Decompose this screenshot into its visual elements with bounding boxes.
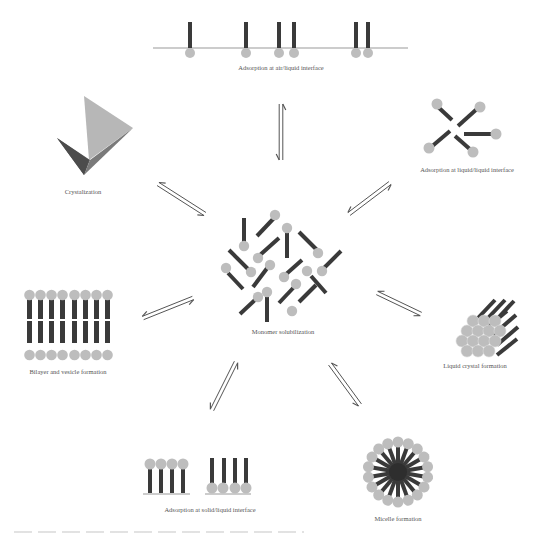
label-air-liquid: Adsorption at air/liquid interface	[238, 64, 323, 71]
equilibrium-arrow-solid-liquid	[210, 361, 237, 411]
equilibrium-arrow-crystal	[157, 182, 206, 215]
equilibrium-arrows	[142, 104, 421, 411]
label-bilayer: Bilayer and vesicle formation	[29, 368, 106, 375]
label-solid-liquid: Adsorption at solid/liquid interface	[164, 506, 255, 513]
monomer-cluster-figure	[221, 210, 341, 322]
solid-liquid-figure	[143, 458, 252, 494]
label-liquid-liquid: Adsorption at liquid/liquid interface	[420, 166, 514, 173]
air-liquid-interface-figure	[153, 22, 408, 58]
label-liquid-crystal: Liquid crystal formation	[443, 362, 507, 369]
liquid-crystal-figure	[456, 300, 518, 357]
micelle-figure	[362, 437, 434, 508]
liquid-liquid-figure	[424, 99, 502, 158]
equilibrium-arrow-liquid-crystal	[376, 291, 422, 315]
label-crystal: Crystalization	[65, 188, 101, 195]
equilibrium-arrow-liquid-liquid	[348, 182, 391, 216]
equilibrium-arrow-micelle	[329, 363, 362, 406]
label-micelle: Micelle formation	[374, 515, 421, 522]
surfactant-diagram	[0, 0, 542, 541]
bilayer-figure	[24, 290, 113, 361]
caption-remnant	[14, 531, 304, 533]
equilibrium-arrow-air-liquid	[276, 104, 286, 160]
equilibrium-arrow-bilayer	[142, 296, 193, 319]
label-monomer-solubilization: Monomer solubilization	[252, 328, 315, 335]
crystal-figure	[57, 96, 133, 175]
